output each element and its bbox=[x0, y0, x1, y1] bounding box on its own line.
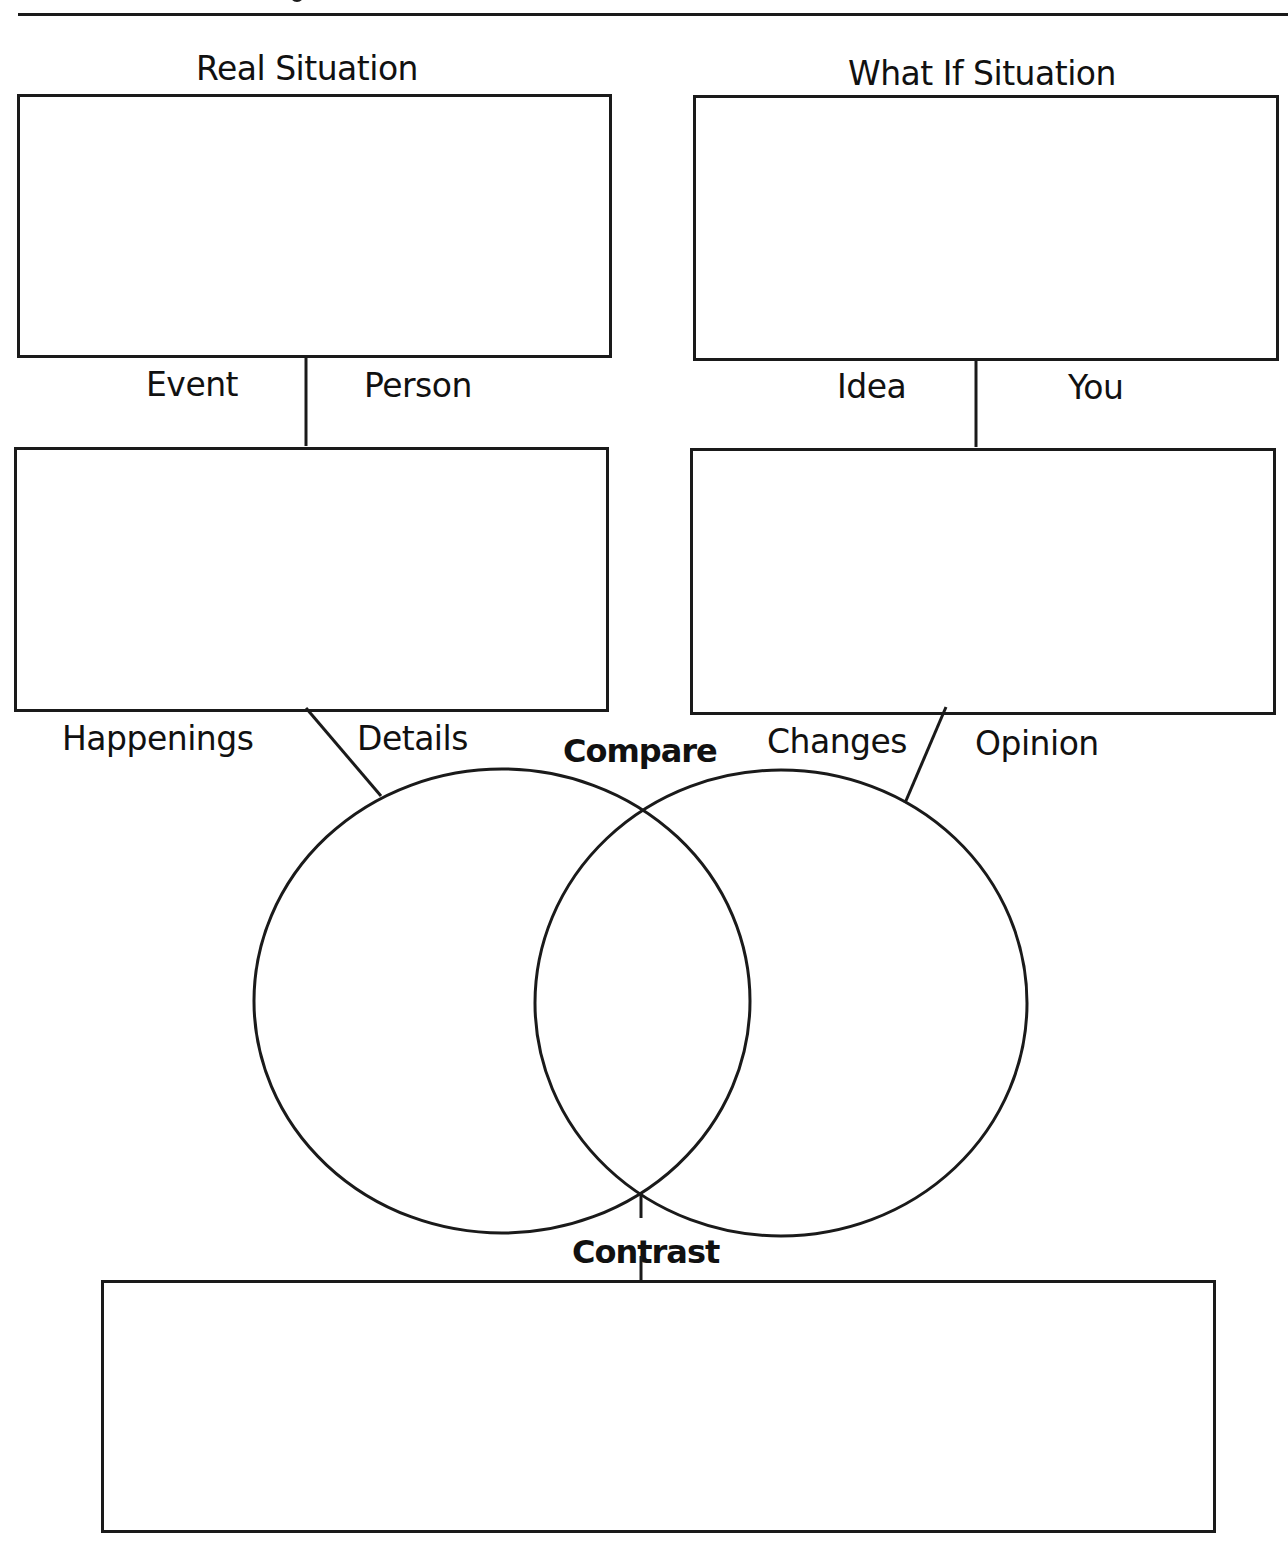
what-if-situation-box[interactable] bbox=[693, 95, 1279, 361]
label-changes: Changes bbox=[767, 725, 907, 758]
idea-you-box[interactable] bbox=[690, 448, 1276, 715]
label-compare: Compare bbox=[563, 735, 717, 767]
label-event: Event bbox=[146, 368, 238, 401]
contrast-box[interactable] bbox=[101, 1280, 1216, 1533]
label-person: Person bbox=[364, 369, 472, 402]
heading-what-if-situation: What If Situation bbox=[848, 57, 1116, 90]
label-opinion: Opinion bbox=[975, 727, 1099, 760]
real-situation-box[interactable] bbox=[17, 94, 612, 358]
connector-right-diagonal bbox=[905, 707, 946, 803]
label-happenings: Happenings bbox=[62, 722, 253, 755]
header-rule bbox=[18, 13, 1288, 16]
label-contrast: Contrast bbox=[572, 1236, 719, 1268]
title-fragment bbox=[290, 0, 304, 2]
label-idea: Idea bbox=[837, 370, 906, 403]
venn-left-circle[interactable] bbox=[254, 769, 750, 1233]
venn-right-circle[interactable] bbox=[535, 770, 1027, 1236]
label-details: Details bbox=[357, 722, 468, 755]
label-you: You bbox=[1068, 371, 1123, 404]
heading-real-situation: Real Situation bbox=[196, 52, 418, 85]
event-person-box[interactable] bbox=[14, 447, 609, 712]
